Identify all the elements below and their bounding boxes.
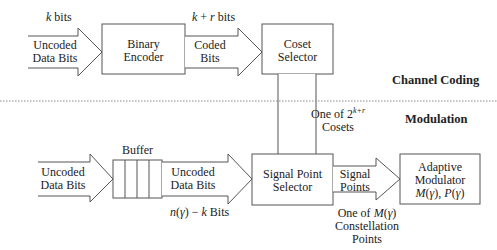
bottom-uncoded-line2: Data Bits: [38, 179, 88, 192]
k-plus-r-bits-label: k + r bits: [192, 11, 235, 24]
binary-encoder-line2: Encoder: [102, 51, 185, 64]
binary-encoder-label: Binary Encoder: [102, 38, 185, 64]
buffer-output-label: Uncoded Data Bits: [166, 166, 220, 192]
signal-points-line2: Points: [336, 181, 374, 194]
signal-point-selector-label: Signal Point Selector: [252, 168, 333, 194]
signal-points-label: Signal Points: [336, 168, 374, 194]
coset-selector-line2: Selector: [262, 51, 333, 64]
buffer-label: Buffer: [113, 144, 162, 157]
adaptive-modulator-label: Adaptive Modulator M(γ), P(γ): [400, 161, 480, 200]
top-uncoded-line2: Data Bits: [30, 52, 80, 65]
signal-point-selector-line2: Selector: [252, 181, 333, 194]
constellation-line3: Points: [330, 233, 404, 246]
coset-selector-label: Coset Selector: [262, 38, 333, 64]
bottom-uncoded-label: Uncoded Data Bits: [38, 166, 88, 192]
buffer-output-line2: Data Bits: [166, 179, 220, 192]
coded-bits-label: Coded Bits: [188, 39, 232, 65]
coded-bits-line2: Bits: [188, 52, 232, 65]
k-bits-label: k bits: [46, 11, 72, 24]
modulation-heading: Modulation: [405, 113, 468, 126]
cosets-label: One of 2k+r Cosets: [306, 108, 370, 134]
constellation-points-label: One of M(γ) Constellation Points: [330, 207, 404, 246]
top-uncoded-label: Uncoded Data Bits: [30, 39, 80, 65]
channel-coding-heading: Channel Coding: [392, 74, 479, 87]
cosets-line2: Cosets: [306, 121, 370, 134]
n-gamma-minus-k-label: n(γ) − k Bits: [170, 206, 229, 219]
adaptive-modulator-line3: M(γ), P(γ): [400, 187, 480, 200]
